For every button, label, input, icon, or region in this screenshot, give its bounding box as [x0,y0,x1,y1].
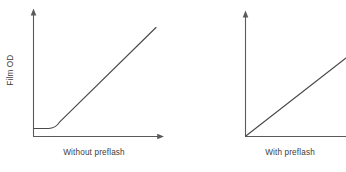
plot-area-with-preflash [176,0,346,172]
y-axis-arrow-icon [31,9,37,16]
two-panel-figure: Film OD Without preflash With preflash [0,0,346,172]
x-axis-arrow-icon [157,134,164,139]
chart-panel-without-preflash: Film OD Without preflash [0,0,176,172]
x-axis-label-without-preflash: Without preflash [0,149,176,157]
y-axis-label-film-od: Film OD [7,42,15,98]
chart-panel-with-preflash: With preflash [176,0,346,172]
y-axis-arrow-icon [243,11,249,18]
x-axis-label-with-preflash: With preflash [176,149,346,157]
curve-without-preflash [34,28,156,129]
plot-area-without-preflash [0,0,176,172]
curve-with-preflash [246,58,346,136]
